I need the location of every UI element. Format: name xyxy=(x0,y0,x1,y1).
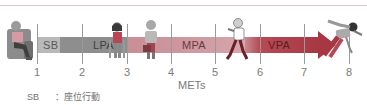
sprinting-runner-icon xyxy=(316,17,366,59)
tick-label-4: 4 xyxy=(163,66,179,78)
tick-label-8: 8 xyxy=(341,66,357,78)
tick-label-7: 7 xyxy=(296,66,312,78)
top-divider xyxy=(0,5,367,6)
legend-abbr: SB xyxy=(27,92,55,103)
tick-1 xyxy=(37,24,38,64)
tick-2 xyxy=(82,24,83,64)
tick-5 xyxy=(215,24,216,64)
tick-label-6: 6 xyxy=(252,66,268,78)
segment-label-sb: SB xyxy=(43,38,58,52)
tick-label-3: 3 xyxy=(119,66,135,78)
person-carrying-bag-icon xyxy=(140,19,162,61)
axis-title: METs xyxy=(178,79,206,91)
tick-label-5: 5 xyxy=(207,66,223,78)
legend-note: SB：座位行動 xyxy=(27,92,100,103)
sitting-person-icon xyxy=(4,19,36,63)
walking-person-icon xyxy=(225,17,249,63)
standing-person-icon xyxy=(106,22,128,62)
tick-7 xyxy=(304,24,305,64)
segment-label-vpa: VPA xyxy=(268,38,290,52)
legend-separator: ： xyxy=(55,92,64,103)
legend-meaning: 座位行動 xyxy=(64,92,100,103)
tick-6 xyxy=(260,24,261,64)
segment-label-mpa: MPA xyxy=(182,38,206,52)
tick-label-1: 1 xyxy=(29,66,45,78)
tick-label-2: 2 xyxy=(74,66,90,78)
tick-4 xyxy=(171,24,172,64)
